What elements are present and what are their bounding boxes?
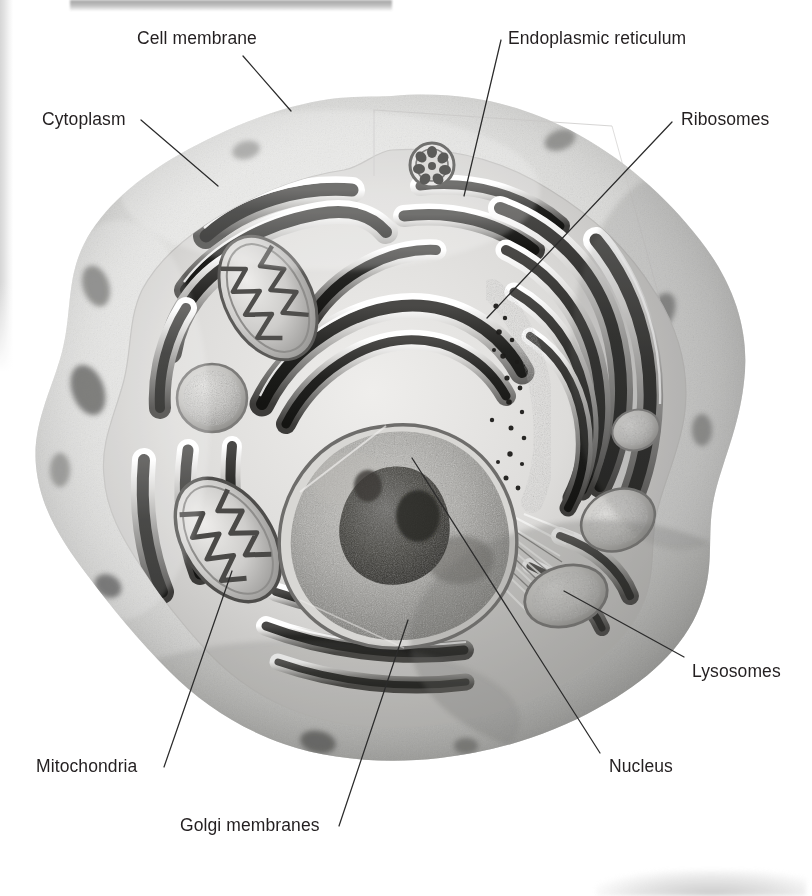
label-golgi-membranes: Golgi membranes (180, 817, 320, 835)
label-cytoplasm: Cytoplasm (42, 111, 126, 129)
label-cell-membrane: Cell membrane (137, 30, 257, 48)
leader-endoplasmic-reticulum (464, 40, 501, 196)
leader-golgi-membranes (339, 620, 408, 826)
scan-edge-artifact-bottom (596, 870, 806, 896)
label-lysosomes: Lysosomes (692, 663, 781, 681)
label-ribosomes: Ribosomes (681, 111, 769, 129)
diagram-canvas: Cell membrane Cytoplasm Endoplasmic reti… (0, 0, 812, 896)
label-endoplasmic-reticulum: Endoplasmic reticulum (508, 30, 686, 48)
leader-ribosomes (487, 122, 672, 318)
label-nucleus: Nucleus (609, 758, 673, 776)
leader-cytoplasm (141, 120, 218, 186)
leader-mitochondria (164, 571, 232, 767)
label-mitochondria: Mitochondria (36, 758, 137, 776)
scan-edge-artifact-top (70, 0, 392, 11)
leader-nucleus (412, 458, 600, 753)
leader-cell-membrane (243, 56, 291, 111)
scan-edge-artifact-left (0, 0, 13, 372)
leader-lysosomes (564, 591, 684, 657)
